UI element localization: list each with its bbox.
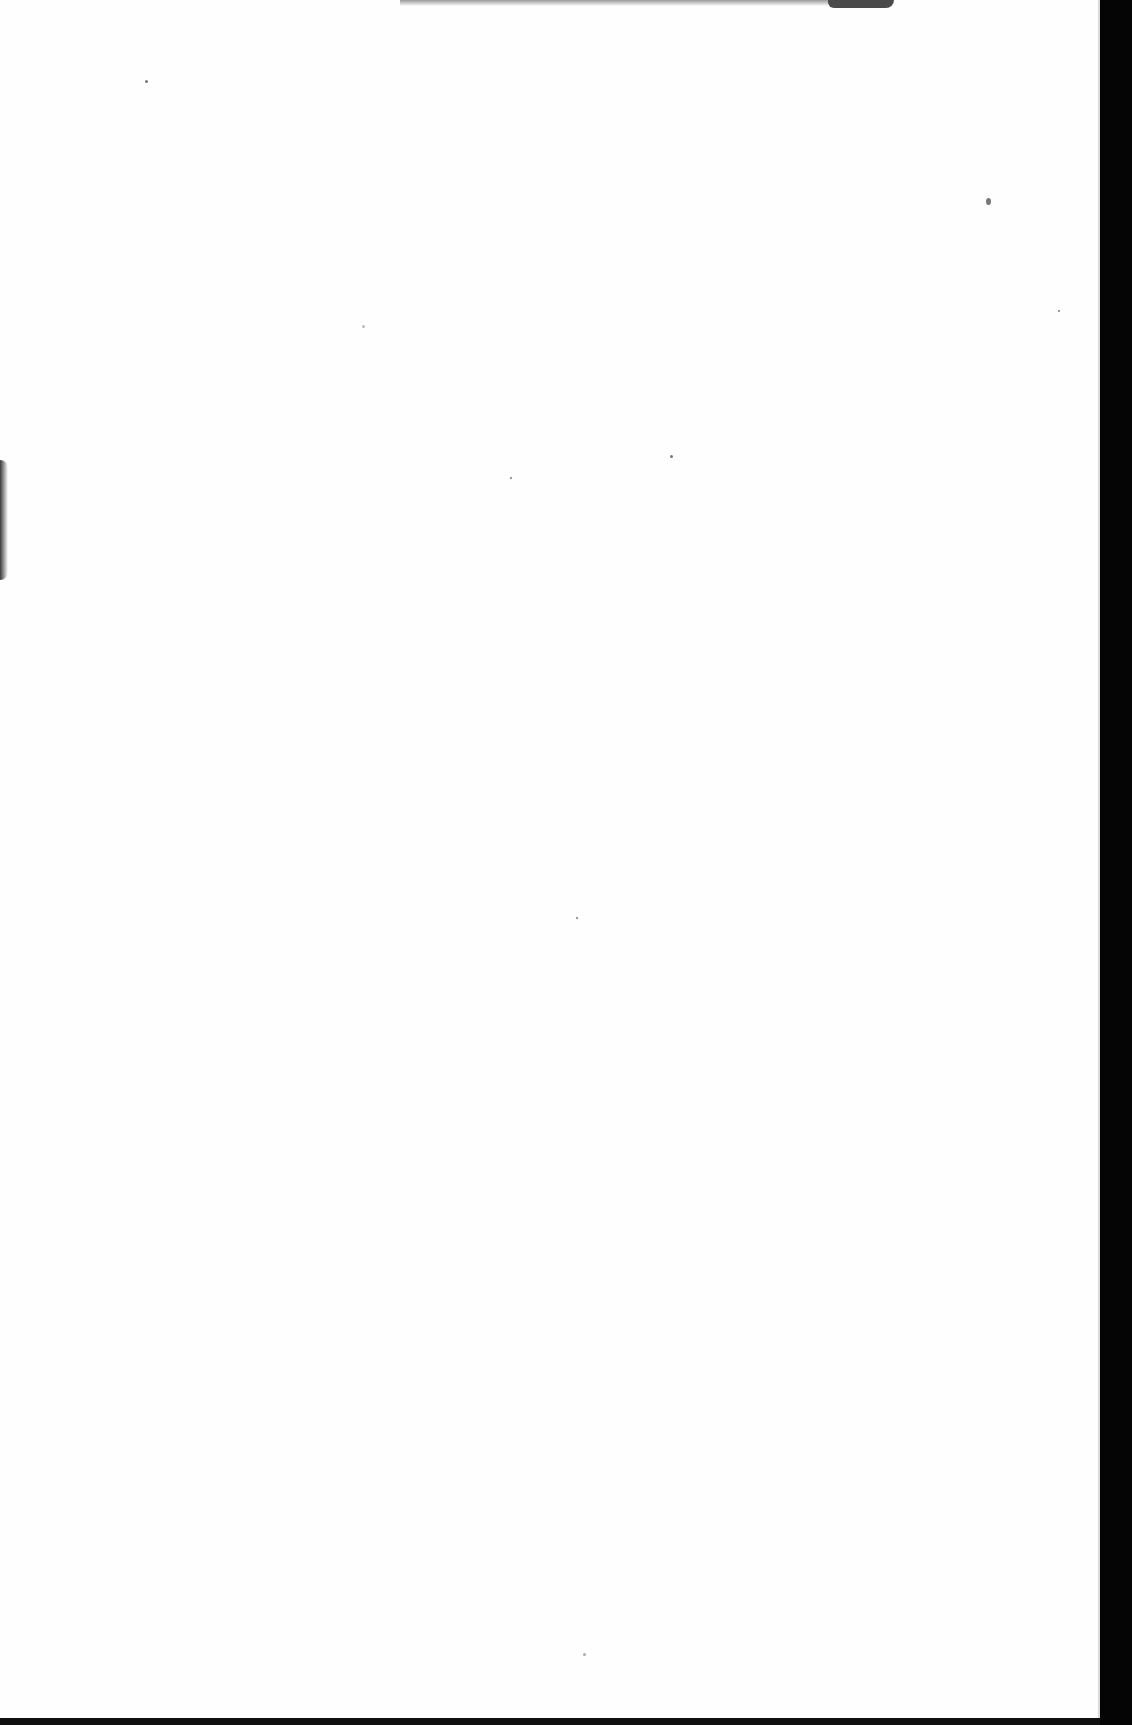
- speck: [986, 198, 991, 205]
- speck: [362, 325, 365, 328]
- left-binding-shadow: [0, 460, 8, 580]
- speck: [583, 1653, 586, 1656]
- speck: [576, 917, 578, 919]
- speck: [145, 80, 148, 83]
- scan-edge-bottom: [0, 1718, 1100, 1725]
- speck: [670, 455, 673, 458]
- top-bleed-through: [400, 0, 880, 6]
- speck: [1058, 310, 1060, 312]
- scan-edge-right: [1100, 0, 1132, 1725]
- blank-page: [0, 0, 1100, 1718]
- speck: [510, 477, 512, 479]
- top-ink-blot: [828, 0, 894, 8]
